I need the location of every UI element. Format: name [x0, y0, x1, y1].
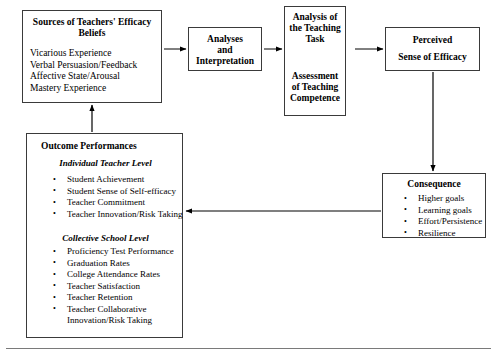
outcome-performances-box: Outcome Performances Individual Teacher … [26, 133, 183, 338]
perceived-line2: Sense of Efficacy [390, 52, 475, 63]
outcome-subheading-individual: Individual Teacher Level [33, 158, 178, 169]
sources-item-1: Verbal Persuasion/Feedback [30, 60, 154, 72]
list-item: College Attendance Rates [53, 269, 178, 281]
task-top-line1: Analysis of [288, 12, 342, 23]
sources-item-2: Affective State/Arousal [30, 71, 154, 83]
list-item: Teacher Collaborative Innovation/Risk Ta… [53, 304, 185, 327]
list-item: Student Sense of Self-efficacy [53, 186, 178, 198]
list-item: Resilience [404, 228, 482, 240]
list-item: Learning goals [404, 205, 482, 217]
outcome-subheading-collective: Collective School Level [33, 233, 178, 244]
list-item: Teacher Retention [53, 292, 178, 304]
outcome-title: Outcome Performances [33, 141, 178, 152]
analysis-of-teaching-task-box: Analysis of the Teaching Task Assessment… [284, 6, 346, 116]
task-bottom-line1: Assessment [288, 71, 342, 82]
analyses-line1: Analyses [193, 34, 257, 45]
list-item: Graduation Rates [53, 258, 178, 270]
task-top-line2: the Teaching [288, 23, 342, 34]
consequence-list: Higher goals Learning goals Effort/Persi… [386, 193, 482, 239]
list-item: Student Achievement [53, 174, 178, 186]
sources-item-0: Vicarious Experience [30, 48, 154, 60]
bottom-divider [6, 348, 491, 349]
outcome-collective-list: Proficiency Test Performance Graduation … [33, 246, 178, 327]
list-item: Proficiency Test Performance [53, 246, 178, 258]
list-item: Teacher Commitment [53, 197, 178, 209]
analyses-line2: and [193, 45, 257, 56]
diagram-canvas: Sources of Teachers' Efficacy Beliefs Vi… [0, 0, 497, 356]
sources-title-line1: Sources of Teachers' Efficacy [30, 17, 154, 28]
analyses-line3: Interpretation [193, 56, 257, 67]
list-item: Teacher Satisfaction [53, 281, 178, 293]
list-item: Effort/Persistence [404, 216, 482, 228]
sources-title-line2: Beliefs [30, 28, 154, 39]
perceived-line1: Perceived [390, 35, 475, 46]
consequence-title: Consequence [386, 179, 482, 190]
analyses-and-interpretation-box: Analyses and Interpretation [188, 27, 262, 71]
list-item: Higher goals [404, 193, 482, 205]
task-bottom-line3: Competence [288, 93, 342, 104]
perceived-sense-of-efficacy-box: Perceived Sense of Efficacy [385, 27, 480, 71]
sources-of-efficacy-beliefs-box: Sources of Teachers' Efficacy Beliefs Vi… [22, 10, 162, 103]
consequence-box: Consequence Higher goals Learning goals … [382, 173, 486, 238]
task-top-line3: Task [288, 34, 342, 45]
sources-item-3: Mastery Experience [30, 83, 154, 95]
task-bottom-line2: of Teaching [288, 82, 342, 93]
list-item: Teacher Innovation/Risk Taking [53, 209, 178, 221]
outcome-individual-list: Student Achievement Student Sense of Sel… [33, 174, 178, 220]
